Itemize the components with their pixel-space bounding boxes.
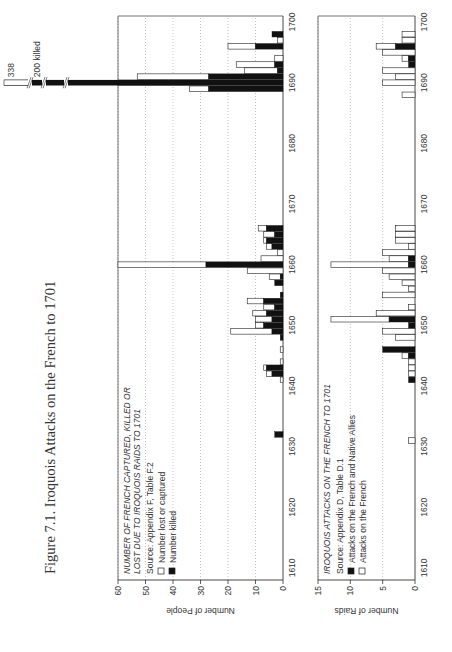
- chart-panel-1: 0102030405060Number of People16101620163…: [113, 12, 297, 616]
- svg-text:1700: 1700: [419, 12, 429, 31]
- svg-text:1650: 1650: [419, 316, 429, 335]
- bar-segment-open: [278, 250, 284, 256]
- bar-segment-open: [247, 268, 283, 274]
- legend-label: Attacks on the French: [358, 480, 368, 563]
- bar-segment-open: [383, 80, 415, 86]
- bar-segment-open: [231, 329, 272, 335]
- rotated-page: Figure 7.1. Iroquois Attacks on the Fren…: [0, 0, 452, 652]
- bar-segment-filled: [280, 292, 283, 298]
- bar-segment-open: [275, 56, 283, 62]
- svg-text:1610: 1610: [419, 558, 429, 577]
- bar-segment-open: [383, 68, 415, 74]
- bar-segment-open: [396, 335, 415, 341]
- bar-segment-open: [383, 50, 415, 56]
- bar-segment-open: [383, 329, 415, 335]
- bar-segment-open: [402, 31, 415, 37]
- svg-text:10: 10: [345, 586, 355, 596]
- svg-text:0: 0: [278, 586, 288, 591]
- bar-segment-filled: [280, 274, 283, 280]
- bar-segment-filled: [275, 432, 283, 438]
- svg-text:0: 0: [410, 586, 420, 591]
- y-axis-label: Number of Raids: [335, 606, 399, 616]
- legend-swatch: [158, 568, 164, 574]
- svg-text:1700: 1700: [287, 12, 297, 31]
- svg-text:10: 10: [251, 586, 261, 596]
- bar-segment-open: [409, 365, 415, 371]
- bar-segment-open: [264, 238, 267, 244]
- bar-segment-open: [396, 74, 415, 80]
- bar-segment-filled: [409, 353, 415, 359]
- bar-segment-open: [409, 244, 415, 250]
- svg-text:1640: 1640: [419, 376, 429, 395]
- bar-segment-open: [278, 37, 284, 43]
- svg-text:1630: 1630: [287, 437, 297, 456]
- bar-segment-open: [409, 286, 415, 292]
- annotation-200-killed: 200 killed: [32, 41, 42, 77]
- svg-text:1680: 1680: [287, 134, 297, 153]
- bar-segment-open: [256, 316, 273, 322]
- svg-text:20: 20: [223, 586, 233, 596]
- bar-segment-open: [331, 316, 389, 322]
- bar-segment-open: [396, 238, 415, 244]
- bar-segment-filled: [272, 244, 283, 250]
- bar-segment-open: [389, 256, 408, 262]
- svg-text:15: 15: [313, 586, 323, 596]
- svg-text:1690: 1690: [287, 73, 297, 92]
- svg-text:30: 30: [196, 586, 206, 596]
- bar-segment-open: [389, 274, 415, 280]
- bar-segment-open: [269, 274, 280, 280]
- svg-text:60: 60: [113, 586, 123, 596]
- svg-text:1610: 1610: [287, 558, 297, 577]
- bar-segment-open: [264, 365, 267, 371]
- svg-text:1670: 1670: [287, 194, 297, 213]
- bar-segment-open: [409, 371, 415, 377]
- y-axis-label: Number of People: [166, 606, 235, 616]
- chart-title: IROQUOIS ATTACKS ON THE FRENCH TO 1701: [322, 384, 332, 574]
- svg-text:1630: 1630: [419, 437, 429, 456]
- chart-title: NUMBER OF FRENCH CAPTURED, KILLED OR: [122, 387, 132, 574]
- svg-text:50: 50: [141, 586, 151, 596]
- bar-segment-filled: [409, 323, 415, 329]
- bar-segment-open: [396, 232, 415, 238]
- annotation-338: 338: [6, 63, 16, 77]
- bar-segment-filled: [272, 329, 283, 335]
- chart-title: LOST DUE TO IROQUOIS RAIDS TO 1701: [132, 409, 142, 574]
- bar-segment-open: [383, 292, 415, 298]
- bar-segment-open: [383, 250, 415, 256]
- bar-segment-open: [261, 256, 283, 262]
- bar-segment-open: [256, 323, 264, 329]
- bar-segment-open: [383, 268, 415, 274]
- svg-text:1680: 1680: [419, 134, 429, 153]
- bar-segment-open: [118, 262, 206, 268]
- svg-text:1650: 1650: [287, 316, 297, 335]
- bar-segment-open: [409, 304, 415, 310]
- bar-segment-open: [267, 244, 273, 250]
- figure-canvas: 0102030405060Number of People16101620163…: [0, 0, 452, 652]
- legend-label: Attacks on the French and Native Allies: [347, 415, 357, 563]
- svg-text:1620: 1620: [419, 498, 429, 517]
- bar-segment-open: [396, 225, 415, 231]
- bar-segment-open: [402, 37, 415, 43]
- bar-segment-open: [253, 310, 267, 316]
- svg-text:1620: 1620: [287, 498, 297, 517]
- chart-panel-2: 051015Number of Raids1610162016301640165…: [313, 12, 429, 616]
- broken-bar-annotation: 338200 killed: [4, 41, 118, 88]
- bar-segment-filled: [264, 323, 283, 329]
- svg-text:5: 5: [378, 586, 388, 591]
- svg-text:1690: 1690: [419, 73, 429, 92]
- svg-text:1670: 1670: [419, 194, 429, 213]
- bar-segment-filled: [278, 68, 284, 74]
- bar-segment-open: [409, 359, 415, 365]
- bar-segment-filled: [275, 304, 283, 310]
- bar-segment-open: [402, 280, 415, 286]
- bar-segment-open: [245, 68, 278, 74]
- bar-segment-filled: [409, 377, 415, 383]
- bar-segment-filled: [209, 74, 283, 80]
- bar-segment-open: [228, 44, 256, 50]
- bar-segment-open: [137, 74, 209, 80]
- bar-segment-filled: [272, 31, 283, 37]
- svg-text:1660: 1660: [419, 255, 429, 274]
- svg-text:1660: 1660: [287, 255, 297, 274]
- bar-segment-open: [280, 347, 283, 353]
- bar-segment-open: [264, 232, 275, 238]
